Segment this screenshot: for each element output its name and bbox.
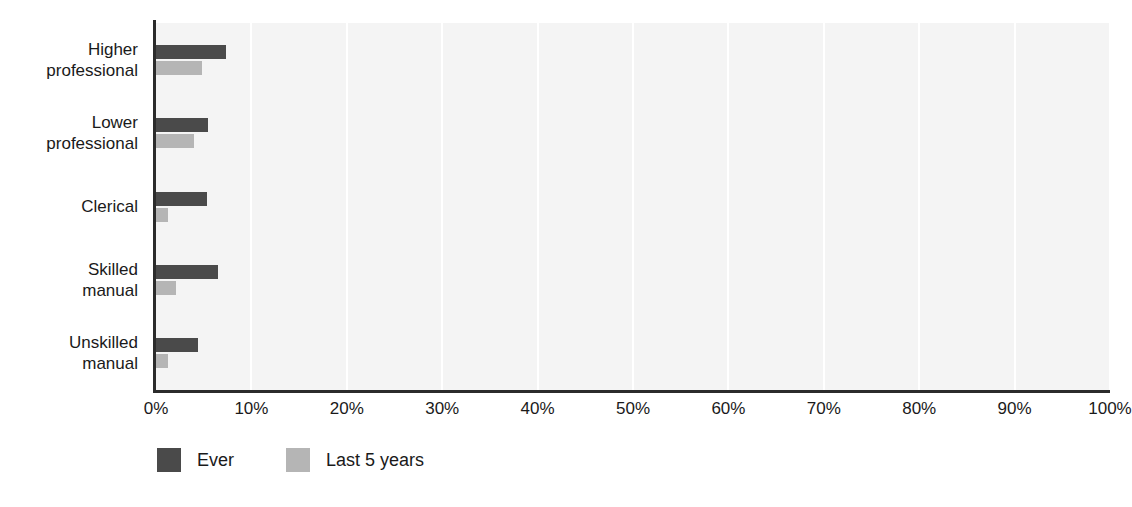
bar bbox=[156, 45, 226, 59]
x-axis-tick-label: 40% bbox=[521, 398, 555, 420]
bar-group bbox=[156, 338, 1110, 368]
bar bbox=[156, 118, 208, 132]
x-axis-tick-label: 20% bbox=[330, 398, 364, 420]
y-axis-category-label: Clerical bbox=[0, 196, 138, 217]
y-axis-line bbox=[153, 20, 156, 393]
x-axis-tick-label: 100% bbox=[1088, 398, 1131, 420]
y-axis-category-label: Higher professional bbox=[0, 39, 138, 81]
y-axis-category-labels: Higher professionalLower professionalCle… bbox=[0, 23, 148, 390]
x-axis-tick-label: 80% bbox=[902, 398, 936, 420]
x-axis-tick-labels: 0%10%20%30%40%50%60%70%80%90%100% bbox=[0, 398, 1118, 424]
x-axis-tick-label: 0% bbox=[144, 398, 169, 420]
legend-item[interactable]: Ever bbox=[157, 448, 234, 472]
bar bbox=[156, 61, 202, 75]
x-axis-tick-label: 50% bbox=[616, 398, 650, 420]
bar-group bbox=[156, 118, 1110, 148]
x-axis-tick-label: 60% bbox=[711, 398, 745, 420]
bar bbox=[156, 265, 218, 279]
y-axis-category-label: Lower professional bbox=[0, 112, 138, 154]
bar bbox=[156, 192, 207, 206]
bar bbox=[156, 281, 176, 295]
legend-swatch bbox=[286, 448, 310, 472]
bar-group bbox=[156, 265, 1110, 295]
bar bbox=[156, 208, 168, 222]
legend-label: Last 5 years bbox=[326, 448, 424, 472]
y-axis-category-label: Unskilled manual bbox=[0, 332, 138, 374]
bar-group bbox=[156, 45, 1110, 75]
bar bbox=[156, 354, 168, 368]
bar bbox=[156, 134, 194, 148]
chart-legend: EverLast 5 years bbox=[157, 448, 476, 472]
x-axis-tick-label: 70% bbox=[807, 398, 841, 420]
plot-area bbox=[156, 23, 1110, 390]
bar bbox=[156, 338, 198, 352]
legend-item[interactable]: Last 5 years bbox=[286, 448, 424, 472]
legend-label: Ever bbox=[197, 448, 234, 472]
y-axis-category-label: Skilled manual bbox=[0, 259, 138, 301]
x-axis-line bbox=[153, 390, 1110, 393]
bar-group bbox=[156, 192, 1110, 222]
legend-swatch bbox=[157, 448, 181, 472]
x-axis-tick-label: 30% bbox=[425, 398, 459, 420]
x-axis-tick-label: 90% bbox=[998, 398, 1032, 420]
x-axis-tick-label: 10% bbox=[234, 398, 268, 420]
